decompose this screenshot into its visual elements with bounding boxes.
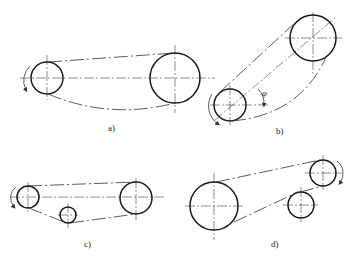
panel-d: d) xyxy=(185,155,343,249)
belt-tight-side xyxy=(48,53,175,62)
panel-label-d: d) xyxy=(271,239,279,249)
belt-tight-side xyxy=(220,22,296,92)
centerline-inclined xyxy=(215,18,335,120)
belt-drive-diagram: a) φ b) c) xyxy=(0,0,350,258)
panel-label-a: a) xyxy=(108,123,115,133)
panel-b: φ b) xyxy=(209,12,342,136)
rotation-arrow-icon xyxy=(337,161,343,183)
panel-label-c: c) xyxy=(84,239,91,249)
belt-upper-side xyxy=(216,160,320,182)
rotation-arrow-icon xyxy=(209,94,218,124)
belt-slack-side-2 xyxy=(70,214,136,223)
belt-slack-side xyxy=(232,57,326,121)
angle-phi-label: φ xyxy=(262,88,267,98)
panel-c: c) xyxy=(10,178,165,249)
belt-lower-side-2 xyxy=(300,186,323,192)
belt-tight-side xyxy=(28,182,136,186)
belt-slack-side xyxy=(48,94,175,110)
panel-a: a) xyxy=(20,45,215,133)
panel-label-b: b) xyxy=(276,126,284,136)
